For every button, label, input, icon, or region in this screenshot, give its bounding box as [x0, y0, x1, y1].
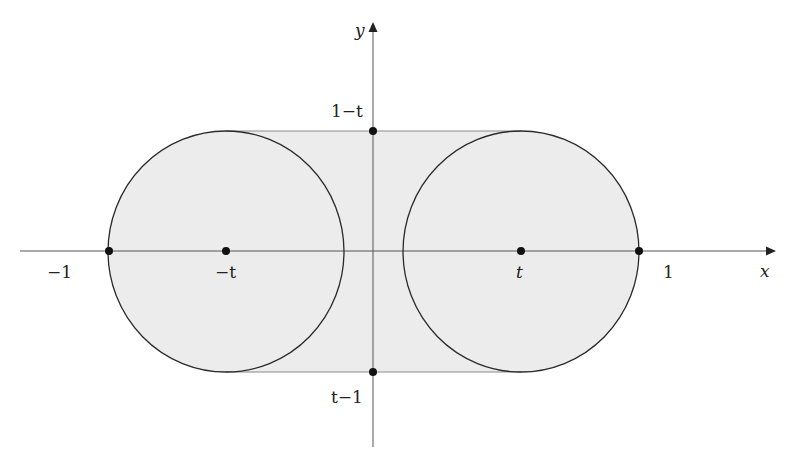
label-one-minus-t: 1−t	[331, 101, 363, 121]
label-t: t	[516, 262, 523, 282]
x-axis-label: x	[760, 261, 770, 281]
point-t	[517, 247, 525, 255]
label-one: 1	[663, 262, 674, 282]
label-t-minus-one: t−1	[331, 387, 363, 407]
label-neg-t: −t	[215, 262, 236, 282]
point-t-minus-one	[369, 368, 377, 376]
label-neg-one: −1	[47, 262, 72, 282]
x-axis-arrow-icon	[766, 247, 776, 256]
y-axis-label: y	[354, 20, 365, 40]
y-axis-arrow-icon	[369, 22, 378, 32]
stadium-diagram: y x −1 −t t 1 1−t t−1	[0, 0, 789, 465]
point-neg-one	[105, 247, 113, 255]
point-neg-t	[222, 247, 230, 255]
point-one-minus-t	[369, 127, 377, 135]
point-one	[635, 247, 643, 255]
